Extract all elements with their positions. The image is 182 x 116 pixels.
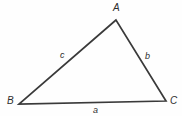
triangle-figure: A B C a b c [0, 0, 182, 116]
vertex-label-b: B [7, 96, 14, 106]
triangle-svg [0, 0, 182, 116]
side-label-a: a [93, 106, 98, 115]
vertex-label-a: A [113, 3, 120, 13]
side-label-b: b [145, 52, 150, 61]
triangle-outline [19, 20, 166, 104]
side-label-c: c [60, 51, 65, 60]
vertex-label-c: C [170, 96, 177, 106]
